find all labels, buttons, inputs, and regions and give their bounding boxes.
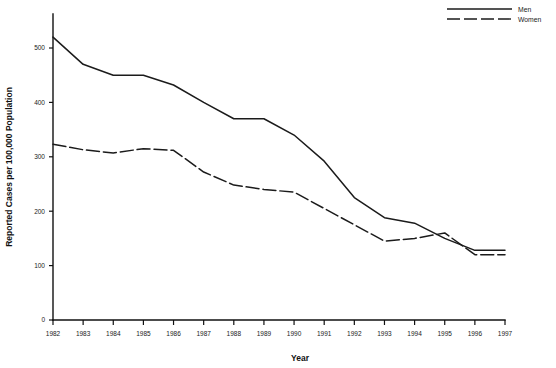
y-tick-label: 500 — [34, 44, 45, 51]
x-tick-label: 1994 — [407, 330, 422, 337]
chart-figure: 0100200300400500 19821983198419851986198… — [0, 0, 556, 368]
x-tick-label: 1993 — [377, 330, 392, 337]
series-line-men — [53, 37, 505, 250]
x-tick-label: 1996 — [468, 330, 483, 337]
series-group — [53, 37, 505, 255]
y-tick-label: 400 — [34, 99, 45, 106]
x-tick-label: 1983 — [76, 330, 91, 337]
legend-label-men: Men — [518, 6, 531, 13]
legend-label-women: Women — [518, 16, 542, 23]
x-axis-title: Year — [291, 353, 310, 363]
y-tick-label: 0 — [41, 316, 45, 323]
line-chart: 0100200300400500 19821983198419851986198… — [0, 0, 556, 368]
x-tick-label: 1997 — [498, 330, 513, 337]
x-tick-label: 1995 — [437, 330, 452, 337]
x-tick-label: 1992 — [347, 330, 362, 337]
y-tick-label: 200 — [34, 208, 45, 215]
x-tick-label: 1989 — [257, 330, 272, 337]
y-tick-label: 300 — [34, 153, 45, 160]
x-tick-label: 1984 — [106, 330, 121, 337]
x-tick-label: 1991 — [317, 330, 332, 337]
x-tick-label: 1986 — [166, 330, 181, 337]
y-axis-ticks: 0100200300400500 — [34, 44, 53, 323]
chart-legend: Men Women — [447, 6, 542, 23]
x-tick-label: 1985 — [136, 330, 151, 337]
series-line-women — [53, 144, 505, 254]
y-tick-label: 100 — [34, 262, 45, 269]
x-tick-label: 1988 — [227, 330, 242, 337]
x-tick-label: 1982 — [46, 330, 61, 337]
x-tick-label: 1987 — [196, 330, 211, 337]
x-tick-label: 1990 — [287, 330, 302, 337]
x-axis-ticks: 1982198319841985198619871988198919901991… — [46, 320, 513, 337]
y-axis-title: Reported Cases per 100,000 Population — [4, 87, 14, 247]
